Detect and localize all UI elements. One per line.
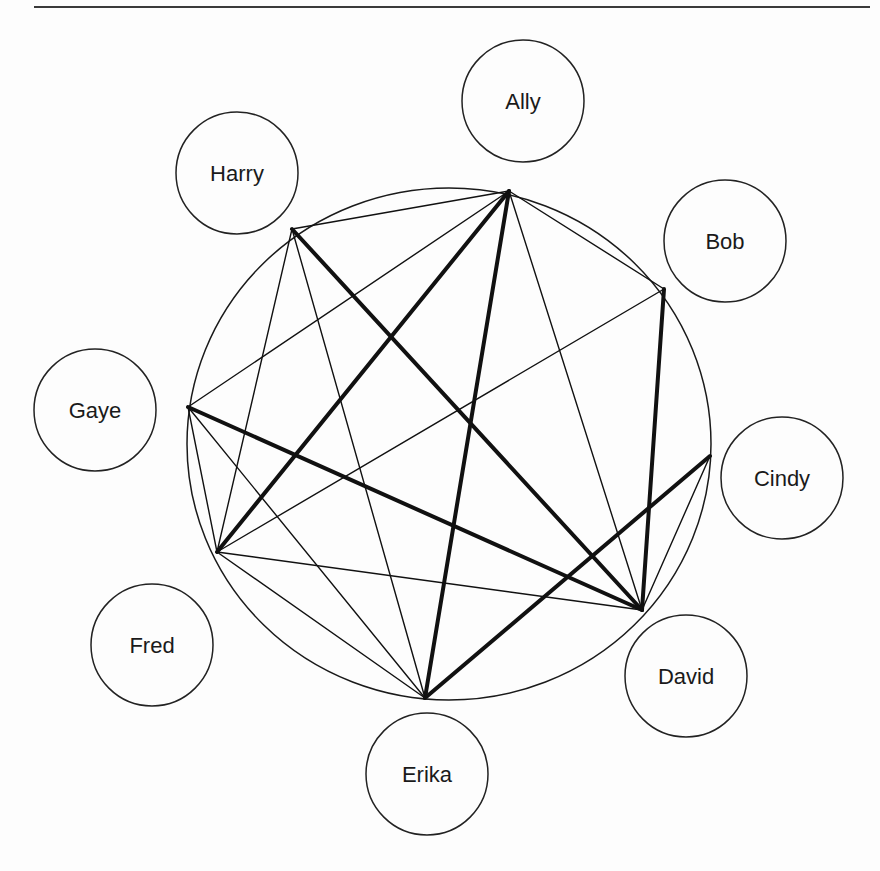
node-label: Ally	[505, 89, 540, 114]
edge-ally-fred	[217, 191, 509, 552]
node-label: David	[658, 664, 714, 689]
node-label: Harry	[210, 161, 264, 186]
graph-canvas: AllyBobCindyDavidErikaFredGayeHarry	[0, 0, 880, 871]
node-label: Gaye	[69, 398, 122, 423]
node-david: David	[625, 615, 747, 737]
node-label: Bob	[705, 229, 744, 254]
edge-ally-erika	[425, 191, 509, 698]
nodes-layer: AllyBobCindyDavidErikaFredGayeHarry	[34, 40, 843, 835]
edge-harry-david	[292, 229, 642, 610]
edge-ally-bob	[509, 191, 664, 289]
node-label: Fred	[129, 633, 174, 658]
edges-layer	[188, 191, 710, 698]
edge-fred-erika	[217, 552, 425, 698]
edge-bob-fred	[217, 289, 664, 552]
node-erika: Erika	[366, 713, 488, 835]
edge-ally-gaye	[188, 191, 509, 407]
node-bob: Bob	[664, 180, 786, 302]
edge-bob-david	[642, 289, 664, 610]
node-label: Erika	[402, 762, 453, 787]
node-label: Cindy	[754, 466, 810, 491]
node-gaye: Gaye	[34, 349, 156, 471]
edge-ally-david	[509, 191, 642, 610]
node-fred: Fred	[91, 584, 213, 706]
edge-harry-ally	[292, 191, 509, 229]
node-cindy: Cindy	[721, 417, 843, 539]
node-ally: Ally	[462, 40, 584, 162]
node-harry: Harry	[176, 112, 298, 234]
graph-diagram: AllyBobCindyDavidErikaFredGayeHarry	[0, 0, 880, 871]
edge-cindy-erika	[425, 456, 710, 698]
